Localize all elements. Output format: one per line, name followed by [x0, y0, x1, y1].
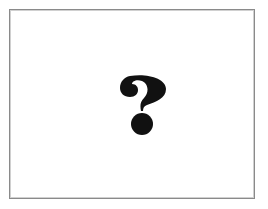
question-mark-icon: [116, 74, 168, 136]
missing-image-placeholder: [9, 9, 255, 199]
